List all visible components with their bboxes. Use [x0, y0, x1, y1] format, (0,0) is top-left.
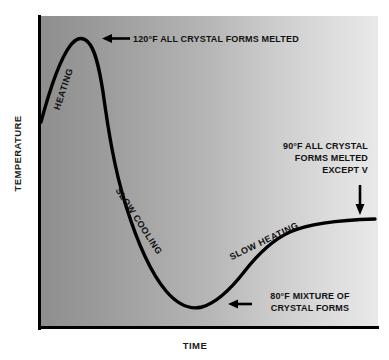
- end-annotation-text: 90°F ALL CRYSTAL FORMS MELTED EXCEPT V: [258, 140, 368, 176]
- trough-annotation-line-1: 80°F MIXTURE OF: [248, 290, 372, 302]
- end-annotation-line-3: EXCEPT V: [258, 164, 368, 176]
- x-axis-line: [38, 326, 379, 329]
- y-axis-title: TEMPERATURE: [12, 109, 23, 199]
- chart-page: TEMPERATURE TIME 120°F ALL CRYSTAL FORMS…: [0, 0, 389, 360]
- end-annotation-line-2: FORMS MELTED: [258, 152, 368, 164]
- x-axis-title: TIME: [150, 340, 240, 351]
- end-annotation-line-1: 90°F ALL CRYSTAL: [258, 140, 368, 152]
- trough-annotation-line-2: CRYSTAL FORMS: [248, 302, 372, 314]
- peak-annotation-text: 120°F ALL CRYSTAL FORMS MELTED: [133, 33, 299, 45]
- y-axis-line: [38, 15, 41, 330]
- trough-annotation-text: 80°F MIXTURE OF CRYSTAL FORMS: [248, 290, 372, 314]
